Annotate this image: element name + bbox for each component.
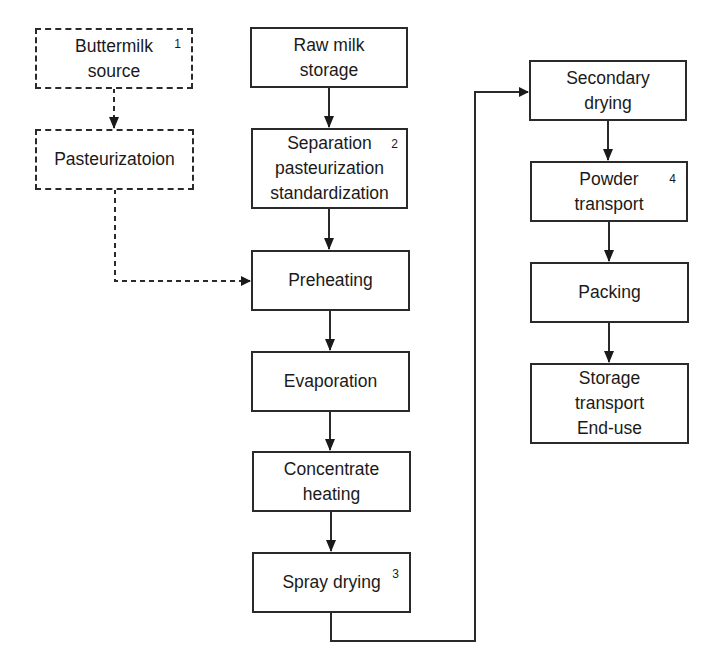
node-powder-transport: Powder transport 4 (530, 161, 688, 222)
node-label: Spray drying (282, 570, 380, 595)
node-secondary-drying: Secondary drying (529, 60, 687, 121)
node-label: Evaporation (284, 369, 377, 394)
node-label: Concentrate heating (284, 457, 379, 507)
node-label: Powder transport (574, 167, 643, 217)
footnote-marker: 4 (669, 173, 676, 185)
node-separation: Separation pasteurization standardizatio… (251, 128, 408, 209)
node-storage-transport-end-use: Storage transport End-use (530, 363, 689, 444)
node-pasteurization-optional: Pasteurizatoion (35, 129, 194, 190)
node-spray-drying: Spray drying 3 (252, 552, 411, 613)
node-label: Packing (578, 280, 640, 305)
node-label: Storage transport End-use (575, 366, 644, 441)
node-raw-milk-storage: Raw milk storage (250, 27, 408, 88)
edge-pasteurization-to-preheating (115, 189, 250, 281)
footnote-marker: 1 (174, 38, 181, 50)
footnote-marker: 3 (392, 568, 399, 580)
node-preheating: Preheating (251, 250, 410, 311)
footnote-marker: 2 (391, 138, 398, 150)
node-label: Pasteurizatoion (54, 147, 175, 172)
node-concentrate-heating: Concentrate heating (252, 451, 411, 512)
node-label: Preheating (288, 268, 373, 293)
node-label: Secondary drying (566, 66, 650, 116)
node-label: Raw milk storage (294, 33, 365, 83)
node-label: Buttermilk source (75, 34, 153, 84)
node-label: Separation pasteurization standardizatio… (270, 131, 389, 206)
node-packing: Packing (530, 262, 689, 323)
node-evaporation: Evaporation (251, 351, 410, 412)
node-buttermilk-source: Buttermilk source 1 (35, 28, 193, 89)
